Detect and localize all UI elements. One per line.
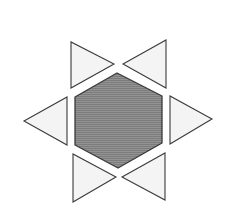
star-hexagon-figure — [0, 0, 233, 221]
figure-svg — [0, 0, 233, 221]
